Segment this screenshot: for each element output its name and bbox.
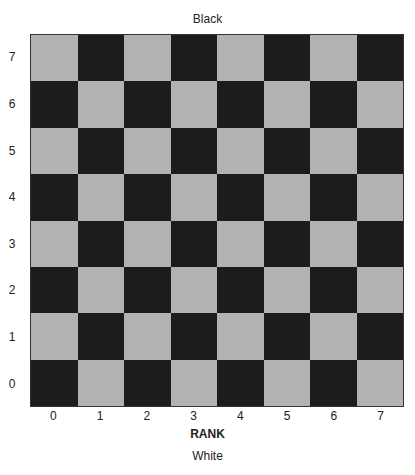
board-square-5-1 (264, 313, 311, 359)
board-square-3-2 (171, 267, 218, 313)
board-square-1-0 (78, 360, 125, 406)
axis-title-rank: RANK (0, 427, 415, 441)
board-square-3-6 (171, 81, 218, 127)
board-square-3-0 (171, 360, 218, 406)
column-label: 2 (124, 409, 171, 425)
board-square-3-7 (171, 35, 218, 81)
board-square-7-5 (357, 128, 404, 174)
board-square-7-4 (357, 174, 404, 220)
board-square-6-7 (310, 35, 357, 81)
board-square-2-5 (124, 128, 171, 174)
row-label: 0 (0, 360, 30, 407)
row-label: 4 (0, 174, 30, 221)
board-square-5-6 (264, 81, 311, 127)
column-label: 1 (77, 409, 124, 425)
board-square-7-0 (357, 360, 404, 406)
row-label: 7 (0, 34, 30, 81)
column-label: 7 (357, 409, 404, 425)
column-label: 4 (217, 409, 264, 425)
bottom-side-label-white: White (0, 449, 415, 463)
board-square-6-4 (310, 174, 357, 220)
column-label: 0 (30, 409, 77, 425)
board-square-2-1 (124, 313, 171, 359)
board-square-5-5 (264, 128, 311, 174)
board-square-2-4 (124, 174, 171, 220)
board-square-1-7 (78, 35, 125, 81)
board-square-2-3 (124, 221, 171, 267)
board-square-5-3 (264, 221, 311, 267)
board-square-4-0 (217, 360, 264, 406)
board-square-6-5 (310, 128, 357, 174)
column-label: 3 (170, 409, 217, 425)
row-label: 2 (0, 267, 30, 314)
board-square-2-7 (124, 35, 171, 81)
board-square-2-6 (124, 81, 171, 127)
row-label: 1 (0, 314, 30, 361)
board-square-1-2 (78, 267, 125, 313)
board-square-1-6 (78, 81, 125, 127)
column-label: 6 (311, 409, 358, 425)
top-side-label-black: Black (0, 12, 415, 26)
board-square-0-5 (31, 128, 78, 174)
board-square-4-3 (217, 221, 264, 267)
board-square-0-2 (31, 267, 78, 313)
board-square-4-2 (217, 267, 264, 313)
chessboard (30, 34, 404, 407)
board-square-1-4 (78, 174, 125, 220)
board-square-0-6 (31, 81, 78, 127)
board-square-2-0 (124, 360, 171, 406)
row-label: 5 (0, 127, 30, 174)
board-square-0-4 (31, 174, 78, 220)
board-square-0-7 (31, 35, 78, 81)
row-label: 6 (0, 81, 30, 128)
board-square-1-5 (78, 128, 125, 174)
board-square-5-0 (264, 360, 311, 406)
board-square-1-3 (78, 221, 125, 267)
board-square-4-4 (217, 174, 264, 220)
board-square-1-1 (78, 313, 125, 359)
row-label: 3 (0, 221, 30, 268)
board-square-7-1 (357, 313, 404, 359)
board-square-7-6 (357, 81, 404, 127)
board-square-0-0 (31, 360, 78, 406)
board-square-7-2 (357, 267, 404, 313)
column-labels: 01234567 (30, 409, 404, 425)
board-square-6-0 (310, 360, 357, 406)
board-square-2-2 (124, 267, 171, 313)
board-square-5-7 (264, 35, 311, 81)
row-labels: 76543210 (0, 34, 30, 407)
board-square-4-5 (217, 128, 264, 174)
board-square-0-3 (31, 221, 78, 267)
board-square-0-1 (31, 313, 78, 359)
column-label: 5 (264, 409, 311, 425)
board-square-3-3 (171, 221, 218, 267)
board-square-6-3 (310, 221, 357, 267)
board-square-3-4 (171, 174, 218, 220)
board-square-5-2 (264, 267, 311, 313)
board-square-6-1 (310, 313, 357, 359)
board-square-4-6 (217, 81, 264, 127)
board-square-5-4 (264, 174, 311, 220)
board-square-6-6 (310, 81, 357, 127)
board-square-4-7 (217, 35, 264, 81)
board-square-3-1 (171, 313, 218, 359)
board-square-3-5 (171, 128, 218, 174)
board-square-7-3 (357, 221, 404, 267)
board-square-6-2 (310, 267, 357, 313)
board-square-7-7 (357, 35, 404, 81)
board-square-4-1 (217, 313, 264, 359)
